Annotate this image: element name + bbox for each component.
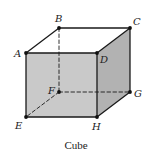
vertex-label-c: C [133,16,141,27]
vertex-point-a [24,51,28,55]
vertex-label-d: D [99,54,108,65]
vertex-point-b [57,26,61,30]
vertex-label-h: H [91,121,101,132]
vertex-label-f: F [47,85,56,96]
vertex-point-d [95,51,99,55]
vertex-label-e: E [14,120,23,131]
vertex-point-e [24,115,28,119]
vertex-label-g: G [134,88,142,99]
cube-diagram: A B C D E F G H Cube [0,0,152,155]
vertex-point-c [128,26,132,30]
vertex-point-f [57,90,61,94]
front-face [26,53,97,117]
vertex-label-b: B [54,13,62,24]
vertex-point-g [128,90,132,94]
vertex-point-h [95,115,99,119]
vertex-label-a: A [13,48,21,59]
figure-caption: Cube [64,139,87,151]
